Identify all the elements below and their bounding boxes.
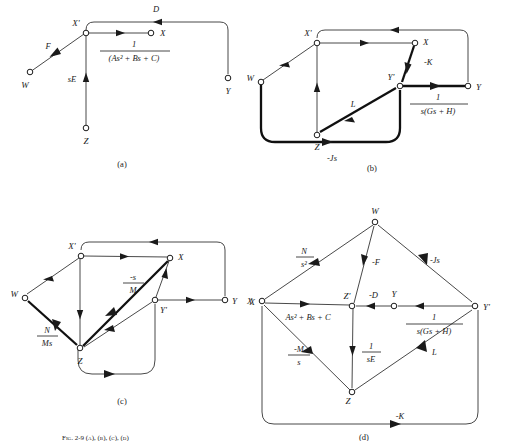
node-a-Y[interactable] <box>225 75 231 81</box>
edge-label-d-N-s2-numerator: N <box>300 246 308 256</box>
figure-canvas: W X' X Y Z D F sE 1 (As² + Bs + C) (a) <box>0 0 506 441</box>
edge-c-W-Z <box>28 301 77 345</box>
edge-label-d-F: -F <box>372 257 381 267</box>
arrowhead-c-Yp-Z <box>104 325 115 332</box>
edge-label-d-M-s-denominator: s <box>297 357 301 367</box>
arrowhead-c-Yp-X <box>162 268 169 279</box>
arrowhead-d-X-Zp <box>300 301 310 308</box>
node-label-c-Yp: Y' <box>160 305 168 315</box>
edge-label-d-L: L <box>431 347 437 357</box>
node-label-d-X: X <box>249 297 256 307</box>
arrowhead-c-Yp-Y <box>186 297 195 303</box>
arrowhead-b-feedback <box>390 27 399 33</box>
edge-label-b-K: -K <box>424 57 434 67</box>
edge-b-Z-Yp <box>320 88 396 132</box>
node-c-W[interactable] <box>22 295 28 301</box>
edge-b-W-Yp <box>261 84 400 142</box>
edge-label-d-X-Zp: As² + Bs + C <box>284 312 331 322</box>
panel-caption-c: (c) <box>117 396 127 406</box>
node-label-a-W: W <box>21 80 30 90</box>
node-d-Z[interactable] <box>349 389 355 395</box>
node-b-X[interactable] <box>412 40 418 46</box>
edge-a-Y-Xp <box>86 22 228 74</box>
edge-label-d-N-s2: N s² <box>296 246 314 269</box>
figure-caption: Fig. 2-9 (a), (b), (c), (d) <box>62 434 129 441</box>
edge-label-d-N-s2-denominator: s² <box>301 259 307 269</box>
node-label-c-Xp: X' <box>67 241 76 251</box>
arrowhead-a-transfer <box>116 30 125 36</box>
node-b-W[interactable] <box>258 79 264 85</box>
edge-label-c-s-M-denominator: M <box>128 285 137 295</box>
edge-label-c-s-M: -s M <box>123 272 144 295</box>
panel-d: W X Z' Y Y' Z N s² -F -Js As² + Bs + C -… <box>249 206 492 441</box>
edge-label-c-N-Ms-denominator: Ms <box>41 338 53 348</box>
node-c-Yp[interactable] <box>152 297 158 303</box>
panel-caption-a: (a) <box>117 159 127 169</box>
edge-label-a-transfer: 1 (As² + Bs + C) <box>100 39 170 63</box>
edge-c-Xp-W <box>27 258 79 294</box>
arrowhead-d-Yp-Y <box>415 303 424 310</box>
node-a-Xp[interactable] <box>83 30 89 36</box>
edge-label-d-transfer-numerator: 1 <box>432 312 436 322</box>
node-label-a-Xp: X' <box>71 18 80 28</box>
node-d-W[interactable] <box>372 219 378 225</box>
node-d-Yp[interactable] <box>472 303 478 309</box>
node-d-X[interactable] <box>259 298 265 304</box>
node-c-Xp[interactable] <box>78 253 84 259</box>
node-label-d-Yp: Y' <box>483 302 491 312</box>
panel-b: W X' X Y' Y Z -K L -Js 1 s(Gs + H) (b) <box>247 27 483 173</box>
panel-caption-d: (d) <box>359 432 369 441</box>
node-label-b-Yp: Y' <box>388 72 396 82</box>
node-label-b-X: X <box>422 37 429 47</box>
edge-label-d-K: -K <box>396 411 406 421</box>
edge-b-Xp-W <box>263 44 315 80</box>
edge-label-d-Js: -Js <box>430 255 441 265</box>
arrowhead-c-Z-Xp <box>77 310 83 320</box>
edge-label-b-transfer-numerator: 1 <box>436 92 440 102</box>
node-label-c-Z: Z <box>77 356 83 366</box>
arrowhead-c-Z-Yp <box>104 370 115 378</box>
edge-label-a-transfer-numerator: 1 <box>132 39 136 49</box>
node-a-W[interactable] <box>27 69 33 75</box>
arrowhead-d-D <box>366 303 375 310</box>
panel-c: W X' X Y' Y Z X N Ms -s M (c) <box>11 239 254 406</box>
node-label-b-Xp: X' <box>303 28 312 38</box>
signal-flow-graph-figure: W X' X Y Z D F sE 1 (As² + Bs + C) (a) <box>0 0 506 441</box>
node-b-Yp[interactable] <box>397 83 403 89</box>
panel-a: W X' X Y Z D F sE 1 (As² + Bs + C) (a) <box>21 4 231 169</box>
edge-label-d-sE-numerator: 1 <box>369 341 373 351</box>
node-b-Z[interactable] <box>314 132 320 138</box>
node-b-Xp[interactable] <box>314 40 320 46</box>
arrowhead-d-F <box>361 254 368 266</box>
node-a-X[interactable] <box>148 30 154 36</box>
edge-label-d-transfer-denominator: s(Gs + H) <box>417 326 452 336</box>
arrowhead-a-F <box>50 48 62 58</box>
node-label-d-W: W <box>371 206 380 216</box>
node-label-d-Z: Z <box>345 396 351 406</box>
edge-label-b-transfer-denominator: s(Gs + H) <box>421 106 456 116</box>
node-label-a-Z: Z <box>83 136 89 146</box>
arrowhead-d-K <box>390 420 401 428</box>
arrowhead-c-s-M <box>105 307 117 316</box>
node-c-Y[interactable] <box>222 297 228 303</box>
node-b-Y[interactable] <box>465 83 471 89</box>
node-c-X[interactable] <box>167 255 173 261</box>
edge-label-b-Js: -Js <box>327 153 338 163</box>
edge-label-d-D: -D <box>369 290 379 300</box>
node-d-Y[interactable] <box>391 303 397 309</box>
arrowhead-a-D <box>153 19 162 26</box>
edge-label-c-s-M-numerator: -s <box>130 272 137 282</box>
node-label-c-X: X <box>177 252 184 262</box>
edge-label-d-M-s-numerator: -M <box>294 344 305 354</box>
node-label-d-Y: Y <box>391 289 397 299</box>
arrowhead-a-sE <box>83 73 89 83</box>
edge-label-b-L: L <box>350 99 356 109</box>
node-d-Zp[interactable] <box>349 303 355 309</box>
node-label-d-Zp: Z' <box>344 291 352 301</box>
arrowhead-c-feedback <box>149 239 158 245</box>
edge-label-d-sE-denominator: sE <box>367 354 376 364</box>
edge-label-a-D: D <box>152 4 160 14</box>
node-label-b-Z: Z <box>314 142 320 152</box>
node-c-Z[interactable] <box>77 345 83 351</box>
node-a-Z[interactable] <box>83 125 89 131</box>
